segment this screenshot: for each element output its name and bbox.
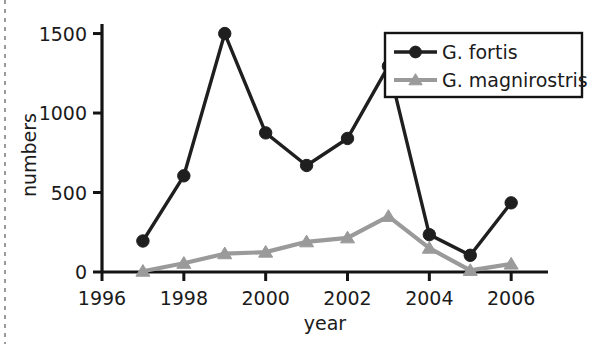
y-tick-label: 1000 (39, 102, 87, 124)
data-point-marker (178, 170, 190, 182)
data-point-marker (464, 249, 476, 261)
y-tick-label: 500 (51, 182, 87, 204)
data-point-marker (341, 132, 353, 144)
data-point-marker (137, 235, 149, 247)
data-point-marker (410, 46, 422, 58)
x-axis-tick-labels: 199619982000200220042006 (78, 287, 536, 309)
data-point-marker (423, 228, 435, 240)
x-tick-label: 2000 (241, 287, 289, 309)
data-point-marker (259, 127, 271, 139)
legend-label: G. fortis (442, 41, 518, 63)
y-axis-tick-labels: 050010001500 (39, 23, 87, 283)
data-point-marker (505, 197, 517, 209)
x-tick-label: 1998 (160, 287, 208, 309)
data-point-marker (381, 210, 395, 222)
x-axis-title: year (304, 312, 347, 334)
y-tick-label: 1500 (39, 23, 87, 45)
data-point-marker (300, 159, 312, 171)
series-g-magnirostris (136, 210, 518, 277)
chart-figure: 050010001500 199619982000200220042006 ye… (0, 0, 593, 344)
x-tick-label: 2002 (323, 287, 371, 309)
x-tick-label: 2006 (487, 287, 535, 309)
series-line (143, 216, 511, 271)
y-tick-label: 0 (75, 261, 87, 283)
x-tick-label: 2004 (405, 287, 453, 309)
chart-legend: G. fortisG. magnirostris (385, 33, 588, 97)
data-point-marker (219, 27, 231, 39)
y-axis-title: numbers (18, 113, 40, 197)
legend-label: G. magnirostris (442, 69, 588, 91)
line-chart: 050010001500 199619982000200220042006 ye… (0, 0, 593, 344)
x-tick-label: 1996 (78, 287, 126, 309)
